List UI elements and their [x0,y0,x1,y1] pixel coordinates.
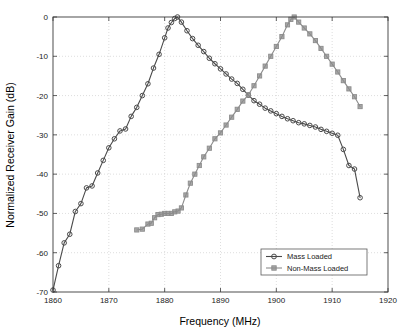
data-point-marker [197,163,201,167]
data-point-marker [135,228,139,232]
data-point-marker [336,70,340,74]
data-point-marker [347,87,351,91]
data-point-marker [319,46,323,50]
legend-item-label[interactable]: Mass Loaded [287,252,332,261]
data-point-marker [263,106,268,111]
data-point-marker [235,107,239,111]
data-point-marker [330,131,335,136]
legend-square-marker [272,266,276,270]
data-point-marker [230,115,234,119]
data-point-marker [268,109,273,114]
data-point-marker [224,72,229,77]
y-tick-label: -10 [36,52,48,61]
y-tick-label: -50 [36,209,48,218]
x-tick-label: 1880 [156,296,174,305]
y-axis-title: Normalized Receiver Gain (dB) [4,82,16,227]
data-point-marker [285,116,290,121]
data-point-marker [280,114,285,119]
data-point-marker [196,43,201,48]
data-point-marker [352,95,356,99]
y-tick-label: -30 [36,131,48,140]
data-point-marker [107,146,112,151]
data-point-marker [330,62,334,66]
data-point-marker [140,227,144,231]
data-point-marker [140,93,145,98]
data-point-marker [347,163,352,168]
data-point-marker [166,26,171,31]
data-point-marker [146,81,151,86]
data-point-marker [308,32,312,36]
chart-legend[interactable]: Mass LoadedNon-Mass Loaded [261,249,367,275]
data-point-marker [201,49,206,54]
y-tick-label: -40 [36,170,48,179]
data-point-marker [185,28,190,33]
data-point-marker [341,79,345,83]
data-point-marker [358,195,363,200]
data-point-marker [274,44,278,48]
data-point-marker [335,133,340,138]
data-point-marker [297,20,301,24]
x-tick-label: 1910 [323,296,341,305]
data-point-marker [352,167,357,172]
data-point-marker [257,74,261,78]
data-point-marker [313,38,317,42]
data-point-marker [151,66,156,71]
data-point-marker [193,172,197,176]
data-point-marker [95,171,100,176]
x-tick-label: 1860 [44,296,62,305]
data-point-marker [134,105,139,110]
y-tick-label: -70 [36,288,48,297]
data-point-marker [118,129,123,134]
data-point-marker [62,241,67,246]
data-point-marker [129,114,134,119]
data-point-marker [162,36,167,41]
data-point-marker [190,36,195,41]
data-point-marker [302,26,306,30]
data-point-marker [296,120,301,125]
data-point-marker [79,201,84,206]
data-point-marker [269,54,273,58]
data-point-marker [218,67,223,72]
data-point-marker [207,146,211,150]
x-tick-label: 1870 [100,296,118,305]
data-point-marker [90,184,95,189]
x-tick-label: 1920 [379,296,397,305]
data-point-marker [67,232,72,237]
data-point-marker [56,263,61,268]
data-point-marker [285,23,289,27]
data-point-marker [202,155,206,159]
y-tick-label: -60 [36,249,48,258]
data-point-marker [188,181,192,185]
data-point-marker [319,127,324,132]
data-point-marker [280,35,284,39]
data-point-marker [324,54,328,58]
y-tick-label: -20 [36,92,48,101]
data-point-marker [313,125,318,130]
x-axis-title: Frequency (MHz) [179,315,260,327]
data-point-marker [241,87,246,92]
data-point-marker [213,61,218,66]
data-point-marker [84,186,89,191]
data-point-marker [235,81,240,86]
data-point-marker [358,104,362,108]
data-point-marker [157,52,162,57]
data-point-marker [229,77,234,82]
x-tick-label: 1900 [267,296,285,305]
x-tick-label: 1890 [212,296,230,305]
data-point-marker [274,111,279,116]
data-point-marker [263,64,267,68]
figure-container: 1860187018801890190019101920 0-10-20-30-… [0,0,414,336]
data-point-marker [169,20,174,25]
data-point-marker [291,118,296,123]
chart-canvas: 1860187018801890190019101920 0-10-20-30-… [0,0,414,336]
data-point-marker [213,137,217,141]
data-point-marker [341,147,346,152]
data-point-marker [246,93,250,97]
data-point-marker [218,131,222,135]
data-point-marker [308,123,313,128]
legend-item-label[interactable]: Non-Mass Loaded [287,264,348,273]
data-point-marker [101,158,106,163]
data-point-marker [241,99,245,103]
data-point-marker [302,122,307,127]
data-point-marker [149,221,153,225]
